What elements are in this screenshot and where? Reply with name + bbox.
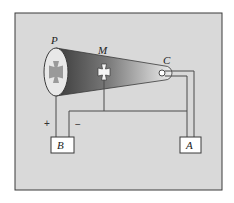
label-battery: B xyxy=(57,139,64,151)
label-cathode: C xyxy=(163,54,171,66)
label-positive: + xyxy=(44,118,50,129)
label-supply: A xyxy=(185,139,193,151)
label-screen: P xyxy=(50,34,58,46)
crookes-tube-diagram: P M C B A + − xyxy=(0,0,234,203)
label-cross: M xyxy=(97,44,108,56)
diagram-frame xyxy=(15,13,222,190)
label-negative: − xyxy=(75,119,81,130)
cathode-circle xyxy=(159,70,165,76)
